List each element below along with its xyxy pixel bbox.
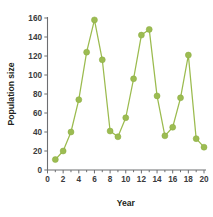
x-tick-label-0: 0 [45, 175, 50, 184]
y-tick-label-120: 120 [28, 52, 42, 61]
y-tick-label-160: 160 [28, 14, 42, 23]
x-axis-title: Year [117, 198, 136, 208]
x-tick-label-18: 18 [184, 175, 194, 184]
x-tick-label-4: 4 [77, 175, 82, 184]
y-tick-label-0: 0 [37, 166, 42, 175]
x-axis: 02468101214161820 [45, 170, 209, 184]
data-series-population-size [52, 17, 207, 163]
data-point-year-17 [178, 95, 184, 101]
data-point-year-16 [170, 124, 176, 130]
x-tick-label-2: 2 [61, 175, 66, 184]
x-tick-label-14: 14 [152, 175, 162, 184]
data-point-year-12 [138, 32, 144, 38]
data-point-year-14 [154, 93, 160, 99]
data-point-year-3 [68, 129, 74, 135]
data-point-year-10 [123, 115, 129, 121]
data-point-year-18 [185, 52, 191, 58]
data-point-year-15 [162, 133, 168, 139]
y-tick-label-40: 40 [33, 128, 43, 137]
x-tick-label-20: 20 [199, 175, 209, 184]
data-point-year-6 [91, 17, 97, 23]
y-tick-label-140: 140 [28, 33, 42, 42]
data-point-year-5 [84, 49, 90, 55]
data-point-year-13 [146, 26, 152, 32]
y-tick-label-80: 80 [33, 90, 43, 99]
data-point-year-20 [201, 144, 207, 150]
x-tick-label-10: 10 [121, 175, 131, 184]
data-point-year-2 [60, 148, 66, 154]
x-tick-label-12: 12 [137, 175, 147, 184]
y-axis: 020406080100120140160 [28, 14, 47, 175]
data-point-year-4 [76, 97, 82, 103]
x-tick-label-16: 16 [168, 175, 178, 184]
data-point-year-7 [99, 57, 105, 63]
chart-screenshot: 020406080100120140160 02468101214161820 … [0, 0, 213, 217]
data-point-year-9 [115, 134, 121, 140]
data-point-year-19 [193, 136, 199, 142]
x-tick-label-6: 6 [92, 175, 97, 184]
y-tick-label-20: 20 [33, 147, 43, 156]
data-point-year-8 [107, 128, 113, 134]
y-tick-label-100: 100 [28, 71, 42, 80]
data-point-year-1 [52, 157, 58, 163]
y-tick-label-60: 60 [33, 109, 43, 118]
series-polyline [55, 20, 204, 160]
data-point-year-11 [131, 76, 137, 82]
x-tick-label-8: 8 [108, 175, 113, 184]
y-axis-title: Population size [6, 62, 16, 125]
population-line-chart: 020406080100120140160 02468101214161820 … [0, 0, 213, 217]
